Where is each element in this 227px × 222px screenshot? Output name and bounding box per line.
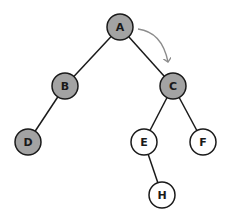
node-h-label: H [157, 189, 166, 202]
node-e[interactable]: E [131, 129, 157, 155]
node-f[interactable]: F [190, 129, 216, 155]
node-a[interactable]: A [107, 14, 133, 40]
node-c[interactable]: C [160, 73, 186, 99]
traversal-arrow-icon [138, 29, 168, 62]
tree-diagram: A B C D E F H [0, 0, 227, 222]
node-f-label: F [199, 136, 207, 149]
edges [28, 27, 203, 195]
node-h[interactable]: H [149, 182, 175, 208]
node-b[interactable]: B [52, 73, 78, 99]
node-d[interactable]: D [15, 129, 41, 155]
node-e-label: E [140, 136, 148, 149]
node-a-label: A [116, 21, 125, 34]
node-b-label: B [61, 80, 69, 93]
node-c-label: C [169, 80, 177, 93]
node-d-label: D [23, 136, 32, 149]
